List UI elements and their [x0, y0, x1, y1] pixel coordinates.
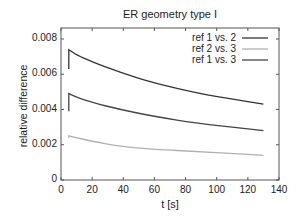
y-tick-label: 0.004	[32, 103, 57, 114]
legend-label: ref 1 vs. 3	[136, 54, 236, 65]
legend-label: ref 2 vs. 3	[136, 43, 236, 54]
y-tick-label: 0.006	[32, 67, 57, 78]
x-tick-label: 20	[77, 184, 107, 195]
x-tick-label: 0	[46, 184, 76, 195]
x-tick-label: 100	[202, 184, 232, 195]
y-tick-label: 0.008	[32, 32, 57, 43]
x-tick-label: 60	[139, 184, 169, 195]
y-tick-label: 0.002	[32, 138, 57, 149]
x-tick-label: 80	[171, 184, 201, 195]
x-tick-label: 140	[264, 184, 294, 195]
x-tick-label: 120	[233, 184, 263, 195]
y-tick-label: 0	[51, 173, 57, 184]
series-line	[69, 136, 264, 155]
x-tick-label: 40	[108, 184, 138, 195]
chart-container: ER geometry type I relative difference t…	[0, 0, 303, 220]
legend-label: ref 1 vs. 2	[136, 32, 236, 43]
